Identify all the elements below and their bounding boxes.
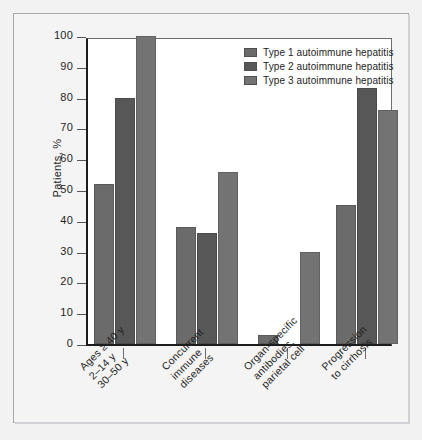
y-axis-tick-mark bbox=[77, 345, 86, 346]
y-axis-tick-mark bbox=[77, 68, 86, 69]
plot-area: Type 1 autoimmune hepatitisType 2 autoim… bbox=[86, 38, 392, 346]
y-axis-tick-mark bbox=[77, 191, 86, 192]
legend-item: Type 3 autoimmune hepatitis bbox=[244, 74, 394, 87]
legend-label: Type 3 autoimmune hepatitis bbox=[263, 75, 394, 86]
y-axis-tick-mark bbox=[77, 37, 86, 38]
legend-label: Type 2 autoimmune hepatitis bbox=[263, 61, 394, 72]
y-axis-tick-label: 20 bbox=[60, 276, 73, 287]
y-axis-tick-label: 0 bbox=[67, 338, 73, 349]
figure-container: Patients, % 0102030405060708090100 Type … bbox=[0, 0, 422, 440]
bar bbox=[378, 110, 398, 344]
y-axis-tick-label: 40 bbox=[60, 215, 73, 226]
y-axis-tick-mark bbox=[77, 253, 86, 254]
y-axis-tick-mark bbox=[77, 129, 86, 130]
y-axis-tick-mark bbox=[77, 99, 86, 100]
legend-swatch-icon bbox=[244, 62, 257, 71]
legend: Type 1 autoimmune hepatitisType 2 autoim… bbox=[240, 43, 399, 91]
bar bbox=[136, 36, 156, 344]
y-axis-tick-mark bbox=[77, 160, 86, 161]
legend-label: Type 1 autoimmune hepatitis bbox=[263, 47, 394, 58]
y-axis-tick-label: 60 bbox=[60, 153, 73, 164]
bar bbox=[218, 172, 238, 344]
bar bbox=[176, 227, 196, 344]
legend-item: Type 2 autoimmune hepatitis bbox=[244, 60, 394, 73]
y-axis-tick-label: 50 bbox=[60, 184, 73, 195]
bar bbox=[94, 184, 114, 344]
legend-item: Type 1 autoimmune hepatitis bbox=[244, 46, 394, 59]
legend-swatch-icon bbox=[244, 48, 257, 57]
bar bbox=[115, 98, 135, 344]
legend-swatch-icon bbox=[244, 76, 257, 85]
y-axis-tick-mark bbox=[77, 314, 86, 315]
y-axis-title: Patients, % bbox=[51, 123, 63, 213]
y-axis-tick-label: 100 bbox=[54, 30, 73, 41]
bar bbox=[357, 88, 377, 344]
figure-border: Patients, % 0102030405060708090100 Type … bbox=[13, 13, 409, 423]
y-axis-tick-mark bbox=[77, 222, 86, 223]
y-axis-tick-label: 90 bbox=[60, 61, 73, 72]
y-axis-tick-label: 30 bbox=[60, 246, 73, 257]
y-axis-tick-label: 80 bbox=[60, 92, 73, 103]
y-axis-tick-label: 70 bbox=[60, 122, 73, 133]
bar bbox=[336, 205, 356, 344]
bar bbox=[197, 233, 217, 344]
y-axis-tick-mark bbox=[77, 283, 86, 284]
y-axis-tick-label: 10 bbox=[60, 307, 73, 318]
